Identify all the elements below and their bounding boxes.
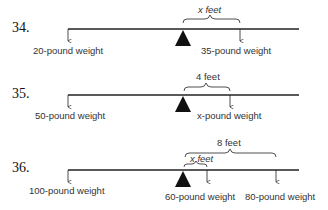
fulcrum-icon bbox=[175, 171, 191, 187]
left-weight-label-34: 20-pound weight bbox=[33, 45, 103, 56]
distance-label-34: x feet bbox=[198, 4, 221, 15]
left-weight-label-35: 50-pound weight bbox=[35, 110, 105, 121]
lever-34 bbox=[68, 15, 299, 46]
fulcrum-icon bbox=[175, 30, 191, 46]
left-weight-label-36: 100-pound weight bbox=[29, 185, 105, 196]
outer-distance-label-36: 8 feet bbox=[217, 137, 241, 148]
distance-label-35: 4 feet bbox=[196, 71, 220, 82]
lever-36 bbox=[68, 149, 299, 187]
middle-weight-label-36: 60-pound weight bbox=[165, 191, 235, 202]
problem-number-34: 34. bbox=[12, 20, 30, 36]
right-weight-label-35: x-pound weight bbox=[197, 110, 261, 121]
problem-number-36: 36. bbox=[12, 160, 30, 176]
fulcrum-icon bbox=[175, 96, 191, 112]
right-weight-label-36: 80-pound weight bbox=[245, 191, 315, 202]
lever-35 bbox=[68, 83, 299, 112]
brace-icon bbox=[183, 15, 240, 23]
problem-number-35: 35. bbox=[12, 86, 30, 102]
brace-icon bbox=[184, 83, 230, 91]
inner-distance-label-36: x feet bbox=[190, 153, 213, 164]
lever-diagrams bbox=[0, 0, 328, 210]
right-weight-label-34: 35-pound weight bbox=[201, 45, 271, 56]
